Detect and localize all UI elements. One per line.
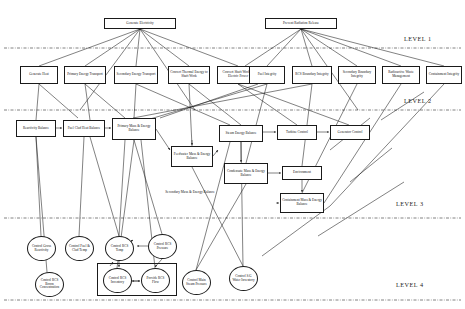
node-label: Control RCS Boron Concentration	[37, 279, 62, 291]
node-steam-energy-balance[interactable]: Steam Energy Balance	[219, 125, 263, 142]
node-label: Generate Heat	[29, 73, 49, 77]
diagram-canvas: Generate Electricity Prevent Radiation R…	[0, 0, 465, 309]
level-label-text: LEVEL 2	[404, 97, 432, 104]
node-convert-thermal-energy[interactable]: Convert Thermal Energy to Shaft Work	[168, 66, 210, 84]
node-label: Generator Control	[338, 131, 363, 135]
node-label: Containment Mass & Energy Balance	[282, 199, 322, 207]
node-label: Convert Thermal Energy to Shaft Work	[170, 71, 208, 79]
node-label: Control Main Steam Pressure	[184, 279, 209, 287]
node-control-rcs-temp[interactable]: Control RCS Temp	[105, 236, 134, 261]
node-feedwater-mass-energy-balance[interactable]: Feedwater Mass & Energy Balance	[171, 146, 213, 167]
node-label: Condensate Mass & Energy Balance	[226, 170, 266, 178]
node-label: Control Fuel & Clad Temp	[67, 245, 92, 253]
node-containment-integrity[interactable]: Containment Integrity	[426, 66, 462, 84]
node-generate-electricity[interactable]: Generate Electricity	[104, 18, 176, 29]
node-rcs-boundary-integrity[interactable]: RCS Boundary Integrity	[292, 66, 332, 84]
node-label: Turbine Control	[286, 131, 308, 135]
node-label: Primary Energy Transport	[67, 73, 103, 77]
group-label-text: Secondary Mass & Energy Balance	[165, 190, 215, 194]
level-1-label: LEVEL 1	[404, 35, 432, 42]
node-control-gross-reactivity[interactable]: Control Gross Reactivity	[27, 236, 56, 261]
node-condensate-mass-energy-balance[interactable]: Condensate Mass & Energy Balance	[224, 163, 268, 184]
node-provide-rcs-flow[interactable]: Provide RCS Flow	[141, 268, 170, 293]
node-label: Secondary Energy Transport	[117, 73, 156, 77]
node-label: Fuel Clad Heat Balance	[68, 127, 101, 131]
node-label: Steam Energy Balance	[226, 132, 257, 136]
node-control-rcs-boron-concentration[interactable]: Control RCS Boron Concentration	[35, 272, 64, 297]
node-label: Control RCS Temp	[107, 245, 132, 253]
node-reactivity-balance[interactable]: Reactivity Balance	[16, 120, 56, 137]
node-label: Reactivity Balance	[23, 127, 49, 131]
node-label: Feedwater Mass & Energy Balance	[173, 153, 211, 161]
node-environment[interactable]: Environment	[282, 166, 322, 180]
level-label-text: LEVEL 1	[404, 35, 432, 42]
node-control-main-steam-pressure[interactable]: Control Main Steam Pressure	[182, 270, 211, 295]
node-secondary-boundary-integrity[interactable]: Secondary Boundary Integrity	[338, 66, 376, 84]
node-label: Generate Electricity	[126, 22, 153, 26]
node-label: Secondary Boundary Integrity	[340, 71, 374, 79]
node-prevent-radiation-release[interactable]: Prevent Radiation Release	[265, 18, 337, 29]
node-fuel-integrity[interactable]: Fuel Integrity	[249, 66, 285, 84]
node-label: Control Gross Reactivity	[29, 245, 54, 253]
node-label: Primary Mass & Energy Balance	[114, 125, 154, 133]
node-radioactive-waste-management[interactable]: Radioactive Waste Management	[382, 66, 420, 84]
level-3-label: LEVEL 3	[396, 200, 424, 207]
node-label: Control RCS Inventory	[105, 277, 130, 285]
node-secondary-energy-transport[interactable]: Secondary Energy Transport	[114, 66, 158, 84]
node-primary-mass-energy-balance[interactable]: Primary Mass & Energy Balance	[112, 118, 156, 140]
node-label: Control S/G Water Inventory	[231, 275, 256, 283]
node-generator-control[interactable]: Generator Control	[330, 125, 370, 140]
level-label-text: LEVEL 3	[396, 200, 424, 207]
node-control-fuel-clad-temp[interactable]: Control Fuel & Clad Temp	[65, 236, 94, 261]
level-label-text: LEVEL 4	[396, 281, 424, 288]
node-label: RCS Boundary Integrity	[295, 73, 328, 77]
node-control-rcs-inventory[interactable]: Control RCS Inventory	[103, 268, 132, 293]
node-containment-mass-energy-balance[interactable]: Containment Mass & Energy Balance	[280, 193, 324, 213]
node-label: Radioactive Waste Management	[384, 71, 418, 79]
node-primary-energy-transport[interactable]: Primary Energy Transport	[64, 66, 106, 84]
node-generate-heat[interactable]: Generate Heat	[20, 66, 58, 84]
node-label: Prevent Radiation Release	[283, 22, 319, 26]
node-label: Containment Integrity	[429, 73, 459, 77]
node-control-sg-water-inventory[interactable]: Control S/G Water Inventory	[229, 266, 258, 291]
level-2-label: LEVEL 2	[404, 97, 432, 104]
secondary-mass-energy-balance-label: Secondary Mass & Energy Balance	[150, 190, 230, 194]
connector-layer	[0, 0, 465, 309]
level-4-label: LEVEL 4	[396, 281, 424, 288]
node-label: Fuel Integrity	[258, 73, 277, 77]
node-label: Provide RCS Flow	[143, 277, 168, 285]
node-label: Environment	[293, 171, 311, 175]
node-control-rcs-pressure[interactable]: Control RCS Pressure	[148, 234, 177, 259]
node-fuel-clad-heat-balance[interactable]: Fuel Clad Heat Balance	[63, 120, 105, 137]
node-label: Control RCS Pressure	[150, 243, 175, 251]
node-turbine-control[interactable]: Turbine Control	[277, 125, 317, 140]
